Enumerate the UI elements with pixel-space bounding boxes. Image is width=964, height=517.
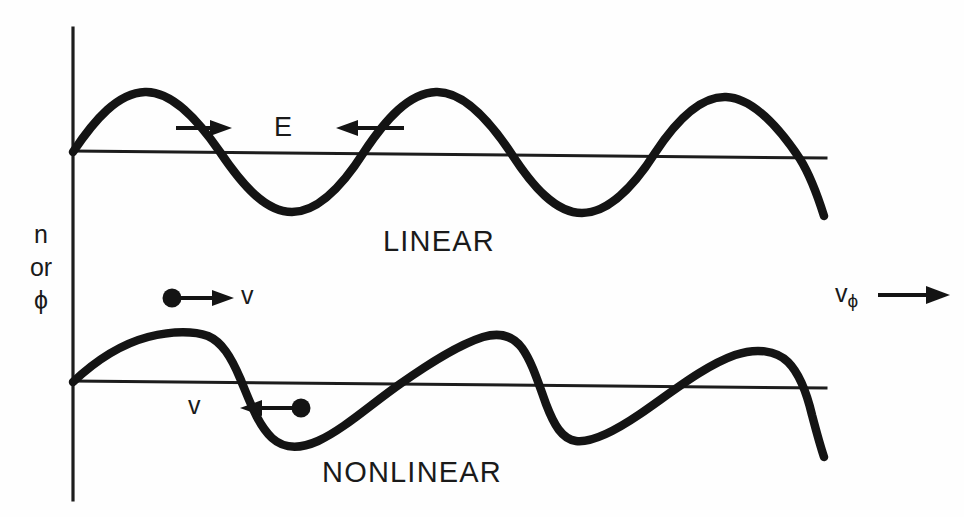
linear-baseline xyxy=(73,151,826,158)
y-axis-label: n or ϕ xyxy=(14,218,68,317)
phase-velocity-subscript: ϕ xyxy=(848,290,859,311)
y-axis-label-line-1: n xyxy=(14,218,68,251)
velocity-label-top: v xyxy=(241,283,254,308)
y-axis-label-line-3: ϕ xyxy=(14,284,68,317)
particle-dot-bottom xyxy=(292,399,311,418)
particle-velocity-right xyxy=(163,289,235,308)
phase-velocity-arrow xyxy=(878,286,950,304)
figure-root: n or ϕ E LINEAR NONLINEAR v v vϕ xyxy=(0,0,964,517)
nonlinear-wave-curve xyxy=(73,332,824,457)
e-field-arrow-left xyxy=(336,120,404,136)
particle-dot-top xyxy=(163,289,182,308)
nonlinear-baseline xyxy=(73,381,826,388)
wave-diagram-svg xyxy=(0,0,964,517)
e-field-label: E xyxy=(274,114,292,141)
velocity-label-bottom: v xyxy=(188,393,201,418)
linear-panel-caption: LINEAR xyxy=(383,227,495,256)
nonlinear-panel-caption: NONLINEAR xyxy=(322,458,502,487)
phase-velocity-symbol: v xyxy=(835,279,848,307)
phase-velocity-label: vϕ xyxy=(835,281,858,310)
y-axis-label-line-2: or xyxy=(14,251,68,284)
